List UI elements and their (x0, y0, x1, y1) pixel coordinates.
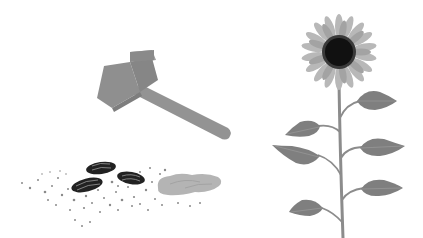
hammer-icon (97, 50, 231, 140)
crushed-pile (158, 174, 222, 195)
flower-center (325, 38, 353, 66)
sunflower-petals (301, 14, 377, 90)
sunflower (272, 14, 405, 238)
illustration-canvas (0, 0, 423, 238)
sunflower-seed-icon (70, 160, 146, 195)
